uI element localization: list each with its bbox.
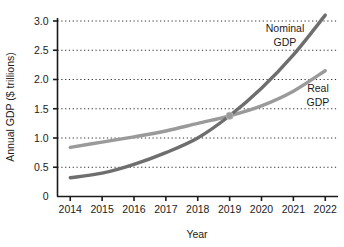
x-tick-label-2018: 2018 [186, 203, 210, 215]
x-tick-label-2019: 2019 [218, 203, 242, 215]
x-tick-label-2020: 2020 [250, 203, 274, 215]
chart-canvas: 00.51.01.52.02.53.0 20142015201620172018… [0, 0, 344, 247]
x-tick-label-2017: 2017 [154, 203, 178, 215]
series-label-real-line2: GDP [307, 96, 330, 108]
y-tick-label-3.0: 3.0 [34, 15, 49, 27]
y-tick-label-0: 0 [43, 190, 49, 202]
y-tick-label-1.5: 1.5 [34, 103, 49, 115]
intersection-marker-group [226, 112, 233, 119]
x-tick-label-2016: 2016 [122, 203, 146, 215]
x-tick-label-2022: 2022 [314, 203, 338, 215]
series-label-nominal-line1: Nominal [266, 22, 305, 34]
gdp-line-chart: 00.51.01.52.02.53.0 20142015201620172018… [0, 0, 344, 247]
y-axis-title: Annual GDP ($ trillions) [4, 52, 16, 162]
x-tick-label-2015: 2015 [90, 203, 114, 215]
x-axis-title: Year [186, 228, 208, 240]
intersection-marker [226, 112, 233, 119]
series-label-nominal-line2: GDP [274, 36, 297, 48]
y-tick-label-2.0: 2.0 [34, 73, 49, 85]
y-tick-label-0.5: 0.5 [34, 161, 49, 173]
x-tick-label-2021: 2021 [282, 203, 306, 215]
y-tick-label-1.0: 1.0 [34, 132, 49, 144]
series-label-real-line1: Real [307, 82, 329, 94]
x-tick-label-2014: 2014 [59, 203, 83, 215]
y-tick-label-2.5: 2.5 [34, 44, 49, 56]
